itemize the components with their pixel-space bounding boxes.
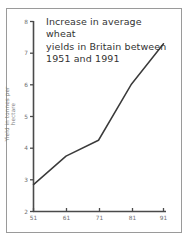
- x-tick-label-51: 51: [26, 215, 42, 221]
- chart-title: Increase in average wheat yields in Brit…: [46, 16, 174, 65]
- y-tick-label-5: 5: [16, 114, 28, 120]
- chart-page: Increase in average wheat yields in Brit…: [0, 0, 188, 249]
- y-axis-label: Yield in tonnes per hectare: [4, 76, 16, 152]
- y-tick-label-6: 6: [16, 82, 28, 88]
- y-tick-label-2: 2: [16, 209, 28, 215]
- x-tick-label-71: 71: [92, 215, 108, 221]
- y-tick-label-4: 4: [16, 145, 28, 151]
- y-tick-label-7: 7: [16, 50, 28, 56]
- y-tick-label-3: 3: [16, 177, 28, 183]
- x-tick-label-61: 61: [59, 215, 75, 221]
- x-tick-label-81: 81: [125, 215, 141, 221]
- y-tick-label-8: 8: [16, 19, 28, 25]
- x-tick-label-91: 91: [156, 215, 172, 221]
